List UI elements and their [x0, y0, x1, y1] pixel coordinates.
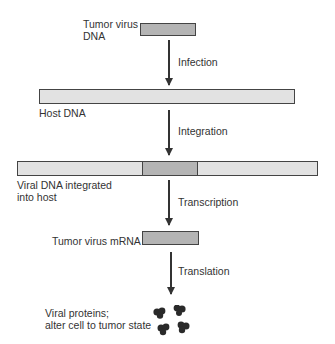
host-dna-label: Host DNA: [39, 107, 86, 119]
proteins-label-1: Viral proteins;: [45, 307, 109, 319]
transcription-arrow: [168, 180, 170, 225]
viral-proteins-icon: [152, 305, 212, 341]
integrated-label-1: Viral DNA integrated: [17, 179, 112, 191]
mrna-label: Tumor virus mRNA: [52, 235, 141, 247]
integrated-viral-segment: [142, 162, 198, 175]
infection-label: Infection: [178, 56, 218, 68]
translation-label: Translation: [178, 265, 230, 277]
translation-arrow: [170, 252, 172, 294]
integrated-dna-bar: [17, 161, 318, 176]
host-dna-bar: [39, 89, 295, 104]
mrna-box: [142, 231, 199, 245]
transcription-label: Transcription: [178, 196, 238, 208]
tumor-virus-dna-label-1: Tumor virus: [83, 18, 138, 30]
tumor-virus-dna-label-2: DNA: [83, 30, 105, 42]
integration-label: Integration: [178, 125, 228, 137]
integration-arrow: [168, 110, 170, 155]
proteins-label-2: alter cell to tumor state: [45, 319, 151, 331]
infection-arrow: [168, 40, 170, 85]
tumor-virus-dna-box: [140, 23, 196, 36]
integrated-label-2: into host: [17, 191, 57, 203]
